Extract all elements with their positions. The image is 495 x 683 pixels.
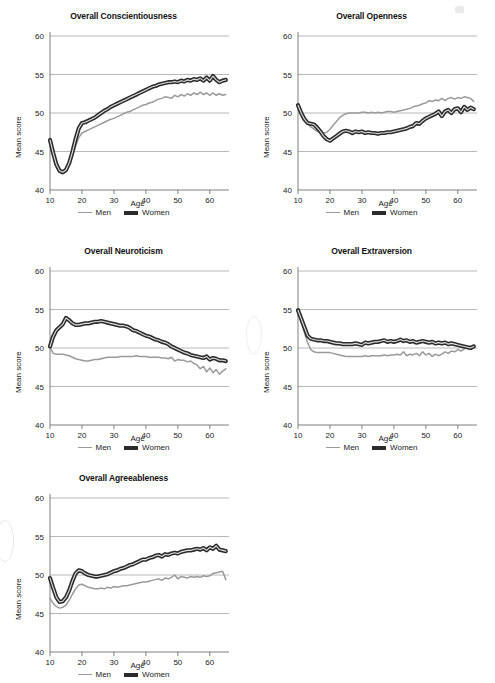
y-tick-label: 45: [283, 383, 292, 392]
series-line-women-highlight: [50, 318, 226, 361]
y-axis-label: Mean score: [14, 116, 23, 158]
x-axis-label: Age: [14, 434, 261, 443]
y-tick-label: 60: [35, 267, 44, 276]
y-tick-label: 45: [35, 148, 44, 157]
legend-label-women: Women: [390, 208, 417, 217]
panel-title: Overall Neuroticism: [0, 246, 247, 256]
legend-item-men: Men: [326, 208, 360, 217]
y-tick-label: 55: [283, 71, 292, 80]
legend-item-women: Women: [124, 670, 169, 679]
legend-label-men: Men: [96, 208, 112, 217]
legend-swatch-men-icon: [78, 674, 92, 676]
y-axis-label: Mean score: [14, 578, 23, 620]
y-axis-label: Mean score: [14, 351, 23, 393]
panel-title: Overall Openness: [248, 11, 495, 21]
legend: Men Women: [0, 443, 247, 452]
legend-item-women: Women: [124, 208, 169, 217]
y-tick-label: 40: [283, 421, 292, 430]
legend-item-men: Men: [326, 443, 360, 452]
legend-label-men: Men: [96, 443, 112, 452]
y-tick-label: 55: [283, 306, 292, 315]
y-axis-label: Mean score: [262, 116, 271, 158]
legend-swatch-women-icon: [124, 446, 138, 450]
y-tick-label: 60: [35, 494, 44, 503]
legend-item-men: Men: [78, 443, 112, 452]
y-tick-label: 50: [283, 344, 292, 353]
y-tick-label: 40: [283, 186, 292, 195]
x-axis-label: Age: [262, 434, 495, 443]
plot-area: 4045505560102030405060: [248, 8, 495, 208]
legend: Men Women: [0, 670, 247, 679]
x-axis-label: Age: [14, 661, 261, 670]
series-line-women: [50, 76, 226, 172]
y-tick-label: 40: [35, 421, 44, 430]
figure-panel-grid: Overall Conscientiousness 40455055601020…: [0, 0, 495, 683]
legend-label-women: Women: [142, 443, 169, 452]
panel-title: Overall Conscientiousness: [0, 11, 247, 21]
legend-swatch-men-icon: [78, 212, 92, 214]
y-tick-label: 40: [35, 186, 44, 195]
legend-swatch-women-icon: [124, 673, 138, 677]
plot-area: 4045505560102030405060: [0, 8, 247, 208]
legend-label-men: Men: [96, 670, 112, 679]
panel-extraversion: Overall Extraversion 4045505560102030405…: [248, 243, 495, 463]
y-tick-label: 60: [35, 32, 44, 41]
legend-swatch-women-icon: [124, 211, 138, 215]
legend-item-men: Men: [78, 670, 112, 679]
y-axis-label: Mean score: [262, 351, 271, 393]
y-tick-label: 45: [283, 148, 292, 157]
series-line-men: [50, 347, 226, 374]
y-tick-label: 45: [35, 383, 44, 392]
legend-item-women: Women: [372, 208, 417, 217]
legend-label-women: Women: [390, 443, 417, 452]
series-line-women: [298, 310, 474, 348]
legend-item-women: Women: [372, 443, 417, 452]
y-tick-label: 50: [35, 571, 44, 580]
legend-swatch-men-icon: [78, 447, 92, 449]
panel-neuroticism: Overall Neuroticism 40455055601020304050…: [0, 243, 247, 463]
legend: Men Women: [0, 208, 247, 217]
plot-area: 4045505560102030405060: [0, 470, 247, 670]
legend-item-men: Men: [78, 208, 112, 217]
y-tick-label: 50: [283, 109, 292, 118]
y-tick-label: 60: [283, 32, 292, 41]
series-line-women: [50, 546, 226, 602]
x-axis-label: Age: [262, 199, 495, 208]
y-tick-label: 45: [35, 610, 44, 619]
series-line-men: [298, 97, 474, 133]
y-tick-label: 50: [35, 109, 44, 118]
plot-area: 4045505560102030405060: [248, 243, 495, 443]
y-tick-label: 55: [35, 533, 44, 542]
series-line-men: [298, 311, 474, 356]
y-tick-label: 55: [35, 306, 44, 315]
panel-conscientiousness: Overall Conscientiousness 40455055601020…: [0, 8, 247, 228]
legend-label-women: Women: [142, 208, 169, 217]
panel-title: Overall Agreeableness: [0, 473, 247, 483]
legend-swatch-men-icon: [326, 212, 340, 214]
legend-swatch-women-icon: [372, 211, 386, 215]
legend-label-men: Men: [344, 208, 360, 217]
panel-openness: Overall Openness 4045505560102030405060 …: [248, 8, 495, 228]
legend-label-men: Men: [344, 443, 360, 452]
legend-swatch-men-icon: [326, 447, 340, 449]
legend-swatch-women-icon: [372, 446, 386, 450]
legend: Men Women: [248, 208, 495, 217]
legend-label-women: Women: [142, 670, 169, 679]
series-line-women-highlight: [50, 76, 226, 172]
y-tick-label: 60: [283, 267, 292, 276]
legend: Men Women: [248, 443, 495, 452]
plot-area: 4045505560102030405060: [0, 243, 247, 443]
x-axis-label: Age: [14, 199, 261, 208]
panel-agreeableness: Overall Agreeableness 404550556010203040…: [0, 470, 247, 683]
y-tick-label: 50: [35, 344, 44, 353]
y-tick-label: 40: [35, 648, 44, 657]
y-tick-label: 55: [35, 71, 44, 80]
legend-item-women: Women: [124, 443, 169, 452]
panel-title: Overall Extraversion: [248, 246, 495, 256]
